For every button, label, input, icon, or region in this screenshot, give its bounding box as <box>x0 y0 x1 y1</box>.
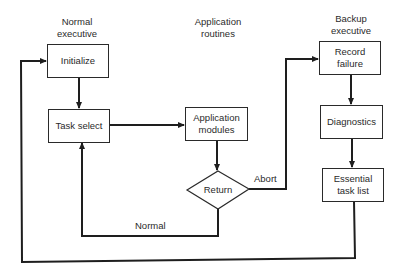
node-application-modules-label: Application modules <box>193 112 239 136</box>
column-header-backup-executive: Backup executive <box>316 13 386 37</box>
node-record-failure: Record failure <box>319 41 381 75</box>
node-application-modules: Application modules <box>185 107 248 141</box>
edge-label-normal: Normal <box>135 220 166 232</box>
node-return-label: Return <box>193 184 243 196</box>
edge-essential-task-list-to-initialize <box>21 61 355 262</box>
node-task-select-label: Task select <box>56 120 103 132</box>
node-essential-task-list-label: Essential task list <box>334 173 373 197</box>
edge-label-abort: Abort <box>254 173 277 185</box>
column-header-normal-executive: Normal executive <box>44 16 110 40</box>
node-task-select: Task select <box>48 109 110 143</box>
node-diagnostics-label: Diagnostics <box>327 116 376 128</box>
node-record-failure-label: Record failure <box>335 46 366 70</box>
edge-return-abort-to-record-failure <box>249 59 318 189</box>
node-diagnostics: Diagnostics <box>320 105 383 139</box>
node-initialize: Initialize <box>47 44 109 78</box>
node-initialize-label: Initialize <box>61 55 95 67</box>
node-essential-task-list: Essential task list <box>322 168 384 202</box>
column-header-application-routines: Application routines <box>180 16 256 40</box>
